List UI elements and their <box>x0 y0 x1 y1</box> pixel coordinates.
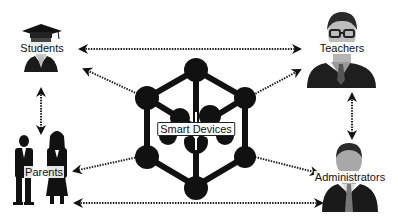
smart-devices-diagram <box>0 0 398 222</box>
teachers-label: Teachers <box>319 42 366 54</box>
administrators-label: Administrators <box>314 171 386 183</box>
parents-label: Parents <box>24 166 64 178</box>
edge-hub-administrators <box>255 157 318 173</box>
edge-hub-teachers <box>253 70 300 95</box>
students-label: Students <box>19 42 64 54</box>
smart-devices-label: Smart Devices <box>157 122 235 136</box>
edge-hub-students <box>84 69 140 95</box>
edge-hub-parents <box>74 157 138 171</box>
